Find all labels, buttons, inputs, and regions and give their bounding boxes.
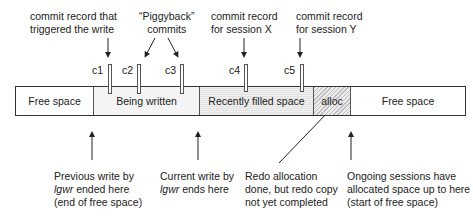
segment-recently-filled: Recently filled space xyxy=(199,87,313,115)
c3-arrow xyxy=(168,38,177,55)
c5-note: commit record for session Y xyxy=(296,10,363,36)
c1-note: commit record that triggered the write xyxy=(30,10,117,36)
segment-free-space-right: Free space xyxy=(351,87,465,115)
piggyback-note: “Piggyback” commits xyxy=(139,10,194,36)
current-write-note: Current write by lgwr ends here xyxy=(160,170,234,196)
redo-allocation-note: Redo allocation done, but redo copy not … xyxy=(245,170,338,209)
c4-marker xyxy=(244,64,248,92)
alloc-arrow xyxy=(279,110,330,163)
c2-arrow xyxy=(146,38,155,55)
ongoing-sessions-note: Ongoing sessions have allocated space up… xyxy=(347,170,470,209)
c5-marker xyxy=(300,64,304,92)
c1-label: c1 xyxy=(92,64,103,76)
c2-label: c2 xyxy=(122,64,133,76)
c2-marker xyxy=(137,64,141,94)
c1-marker xyxy=(108,64,112,94)
c5-label: c5 xyxy=(284,64,295,76)
c4-label: c4 xyxy=(229,64,240,76)
c3-marker xyxy=(180,64,184,94)
c3-label: c3 xyxy=(165,64,176,76)
segment-free-space-left: Free space xyxy=(16,87,93,115)
previous-write-note: Previous write by lgwr ended here (end o… xyxy=(54,170,142,209)
redo-buffer-bar: Free space Being written Recently filled… xyxy=(15,86,466,116)
c4-note: commit record for session X xyxy=(211,10,278,36)
segment-alloc: alloc xyxy=(313,87,351,115)
